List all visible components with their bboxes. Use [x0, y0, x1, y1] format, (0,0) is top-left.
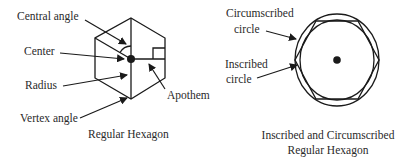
- center-label: Center: [24, 45, 55, 57]
- circumscribed-label-line1: Circumscribed: [226, 7, 294, 19]
- hexagon-diagram: Central angle Center Radius Vertex angle…: [0, 0, 398, 157]
- right-caption-line1: Inscribed and Circumscribed: [262, 129, 395, 141]
- inscribed-circumscribed-figure: Circumscribed circle Inscribed circle In…: [225, 7, 395, 157]
- inscribed-label-line2: circle: [226, 73, 252, 85]
- inscribed-label-line1: Inscribed: [225, 58, 268, 70]
- left-caption: Regular Hexagon: [88, 128, 169, 141]
- circumscribed-label-line2: circle: [234, 23, 260, 35]
- center-dot: [127, 55, 135, 63]
- radius-label: Radius: [25, 79, 57, 91]
- center-arrow: [60, 53, 124, 59]
- vertex-angle-arrow: [80, 98, 127, 118]
- apothem-label: Apothem: [167, 89, 210, 102]
- radius-line-upper-left: [95, 38, 131, 59]
- right-caption-line2: Regular Hexagon: [288, 144, 369, 157]
- regular-hexagon-figure: Central angle Center Radius Vertex angle…: [17, 10, 210, 141]
- right-angle-marker: [153, 48, 165, 59]
- vertex-angle-label: Vertex angle: [20, 112, 78, 125]
- center-dot-right: [333, 56, 341, 64]
- apothem-arrow: [149, 64, 165, 89]
- central-angle-arc: [120, 46, 131, 53]
- circumscribed-arrow: [266, 31, 296, 39]
- central-angle-label: Central angle: [17, 10, 79, 23]
